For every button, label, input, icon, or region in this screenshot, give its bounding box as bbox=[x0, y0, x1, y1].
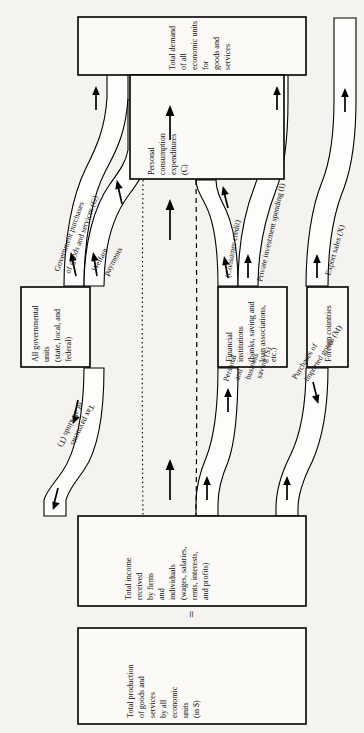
circular-flow-diagram: Total demand of all economic units for g… bbox=[0, 0, 364, 733]
total-production-line-2: of goods and bbox=[137, 676, 146, 718]
total-production-line-3: services bbox=[148, 692, 157, 718]
government-units-line-4: federal) bbox=[64, 337, 73, 362]
total-demand-line-6: services bbox=[223, 44, 232, 70]
equals-sign: = bbox=[184, 611, 199, 618]
government-units-line-1: All governmental bbox=[31, 304, 40, 362]
total-production-line-5: economic bbox=[170, 686, 179, 718]
total-income-line-3: by firms bbox=[146, 573, 155, 600]
arrow-income-center-lower bbox=[166, 459, 175, 500]
total-production-line-7: (in $) bbox=[192, 700, 201, 718]
dashed-inner-line-left bbox=[142, 180, 143, 516]
total-production-line-1: Total production bbox=[126, 664, 135, 718]
total-demand-line-3: economic units bbox=[190, 21, 199, 70]
total-income-line-5: individuals bbox=[168, 564, 177, 600]
flow-band-imports bbox=[276, 368, 328, 516]
total-income-line-8: and profits) bbox=[201, 562, 210, 600]
total-income-line-7: rents, interests, bbox=[190, 551, 199, 600]
total-demand-line-1: Total demand bbox=[168, 26, 177, 70]
arrow-government-purchases bbox=[92, 86, 100, 110]
government-units-line-3: (state, local, and bbox=[53, 309, 62, 362]
total-demand-line-4: for bbox=[201, 60, 210, 70]
personal-consumption-line-4: (C) bbox=[180, 164, 189, 175]
total-income-line-1: Total income bbox=[124, 557, 133, 600]
total-income-line-4: and bbox=[157, 588, 166, 600]
diagram-canvas: Total demand of all economic units for g… bbox=[0, 0, 364, 733]
total-production-line-4: by all bbox=[159, 699, 168, 718]
personal-consumption-line-3: expenditures bbox=[169, 134, 178, 175]
total-demand-line-2: of all bbox=[179, 52, 188, 70]
personal-consumption-line-2: consumption bbox=[158, 133, 167, 175]
total-income-line-2: received bbox=[135, 573, 144, 600]
total-production-line-6: units bbox=[181, 702, 190, 718]
total-demand-line-5: goods and bbox=[212, 37, 221, 70]
flow-band-personal-saving bbox=[196, 368, 238, 516]
personal-consumption-line-1: Personal bbox=[147, 146, 156, 175]
arrow-income-to-consumption bbox=[166, 199, 175, 240]
government-units-line-2: units bbox=[42, 346, 51, 362]
total-income-line-6: (wages, salaries, bbox=[179, 547, 188, 600]
dashed-inner-line-right bbox=[196, 180, 197, 516]
